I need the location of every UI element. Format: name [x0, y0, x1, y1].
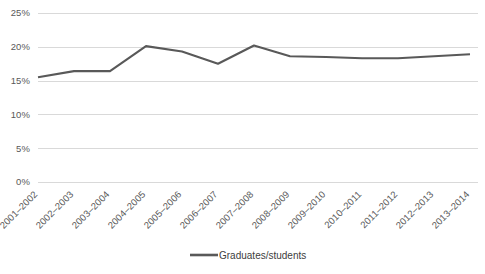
y-tick-label: 0%	[16, 176, 30, 187]
x-tick-label: 2004–2005	[105, 189, 147, 231]
x-tick-label: 2008–2009	[249, 189, 291, 231]
x-tick-label: 2007–2008	[213, 189, 255, 231]
legend-label: Graduates/students	[219, 250, 306, 261]
y-tick-label: 20%	[11, 41, 31, 52]
x-tick-label: 2013–2014	[429, 189, 471, 231]
x-tick-label: 2009–2010	[285, 189, 327, 231]
x-tick-label: 2012–2013	[393, 189, 435, 231]
chart-canvas: 0%5%10%15%20%25% 2001–20022002–20032003–…	[0, 0, 485, 274]
x-tick-label: 2006–2007	[177, 189, 219, 231]
gridlines	[38, 14, 478, 183]
y-tick-label: 15%	[11, 75, 31, 86]
series-line-graduates-students	[38, 45, 470, 77]
line-chart: 0%5%10%15%20%25% 2001–20022002–20032003–…	[0, 0, 485, 274]
y-tick-label: 10%	[11, 109, 31, 120]
y-tick-label: 5%	[16, 143, 30, 154]
x-tick-label: 2010–2011	[322, 189, 364, 231]
y-tick-label: 25%	[11, 7, 31, 18]
x-tick-label: 2003–2004	[69, 189, 111, 231]
x-tick-label: 2002–2003	[33, 189, 75, 231]
chart-legend: Graduates/students	[190, 250, 306, 261]
data-series	[38, 45, 470, 77]
x-tick-label: 2005–2006	[141, 189, 183, 231]
x-axis-tick-labels: 2001–20022002–20032003–20042004–20052005…	[0, 189, 471, 231]
y-axis-tick-labels: 0%5%10%15%20%25%	[11, 7, 31, 187]
